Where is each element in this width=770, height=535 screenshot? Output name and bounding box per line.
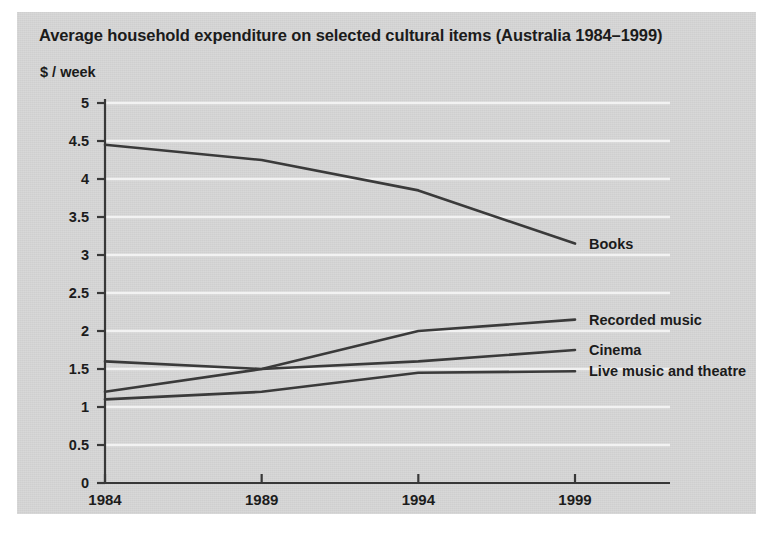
chart-panel: Average household expenditure on selecte… (17, 12, 756, 514)
series-label-cinema: Cinema (589, 342, 641, 358)
series-label-live-music-and-theatre: Live music and theatre (589, 363, 746, 379)
x-tick-label: 1999 (540, 491, 610, 508)
series-line-live-music-and-theatre (105, 371, 575, 399)
x-tick-label: 1989 (227, 491, 297, 508)
y-tick-label: 4 (47, 171, 89, 187)
x-tick-label: 1984 (70, 491, 140, 508)
series-label-books: Books (589, 236, 633, 252)
plot-area: 00.511.522.533.544.55 1984198919941999 B… (17, 12, 756, 514)
series-lines (105, 145, 575, 400)
series-line-books (105, 145, 575, 244)
y-tick-label: 3 (47, 247, 89, 263)
x-tick-label: 1994 (383, 491, 453, 508)
series-line-cinema (105, 350, 575, 369)
y-tick-label: 2 (47, 323, 89, 339)
y-tick-label: 0.5 (47, 437, 89, 453)
axis-lines (104, 99, 670, 483)
series-label-recorded-music: Recorded music (589, 312, 702, 328)
y-tick-label: 4.5 (47, 133, 89, 149)
chart-figure: Average household expenditure on selecte… (0, 0, 770, 535)
chart-canvas (17, 12, 756, 514)
y-tick-label: 5 (47, 95, 89, 111)
y-tick-label: 1 (47, 399, 89, 415)
y-tick-label: 0 (47, 475, 89, 491)
y-tick-label: 3.5 (47, 209, 89, 225)
y-tick-label: 2.5 (47, 285, 89, 301)
y-tick-label: 1.5 (47, 361, 89, 377)
